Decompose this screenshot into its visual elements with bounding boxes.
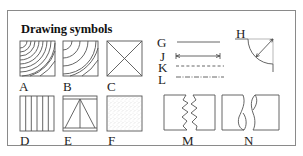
label-a: A	[19, 80, 28, 93]
label-b: B	[63, 80, 72, 93]
stipple-fill	[108, 97, 142, 131]
symbol-e-triangle	[63, 96, 97, 131]
symbol-h-radius	[235, 39, 273, 72]
label-h: H	[236, 27, 245, 40]
label-f: F	[108, 134, 115, 147]
symbol-j-dimension-line	[176, 53, 220, 59]
label-c: C	[107, 80, 116, 93]
label-e: E	[64, 134, 72, 147]
symbol-b-end-grain-sparse	[63, 41, 98, 76]
symbol-n-round-break	[222, 95, 279, 130]
symbol-d-vertical-lines	[20, 96, 54, 131]
label-g: G	[157, 36, 166, 49]
symbol-m-break-line	[164, 95, 215, 130]
label-m: M	[182, 134, 194, 147]
symbols-canvas	[0, 0, 303, 156]
symbol-c-diagonal-cross	[107, 41, 142, 76]
symbol-a-end-grain-dense	[20, 41, 55, 76]
label-n: N	[244, 134, 253, 147]
label-l: L	[158, 73, 166, 86]
label-d: D	[20, 134, 29, 147]
